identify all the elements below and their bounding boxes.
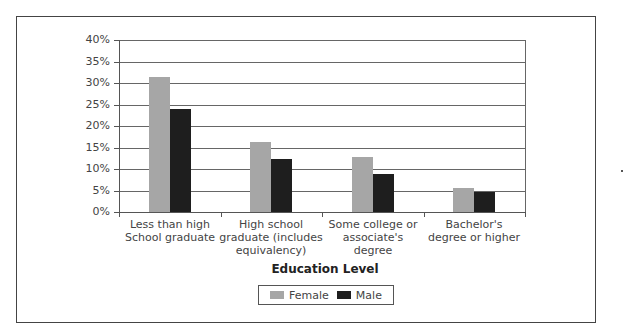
y-tick-label: 20% (64, 120, 110, 132)
bar-female (250, 142, 271, 212)
legend-label: Female (289, 289, 329, 302)
bar-male (271, 159, 292, 212)
bar-male (170, 109, 191, 212)
gridline (119, 40, 525, 41)
y-tick-label: 40% (64, 34, 110, 46)
x-tick (424, 212, 425, 217)
y-tick-label: 35% (64, 56, 110, 68)
x-tick (525, 212, 526, 217)
y-tick-label: 0% (64, 206, 110, 218)
bar-female (352, 157, 373, 212)
y-axis (119, 40, 120, 212)
legend-label: Male (356, 289, 382, 302)
y-tick-label: 25% (64, 99, 110, 111)
y-tick-label: 5% (64, 185, 110, 197)
bar-female (149, 77, 170, 212)
x-category-label: Some college orassociate'sdegree (318, 218, 428, 257)
gridline (119, 105, 525, 106)
x-tick (221, 212, 222, 217)
x-tick (322, 212, 323, 217)
legend-item-male: Male (337, 289, 382, 302)
y-tick-label: 30% (64, 77, 110, 89)
legend-item-female: Female (270, 289, 329, 302)
legend-swatch (337, 291, 351, 299)
x-category-label: Bachelor'sdegree or higher (419, 218, 529, 244)
gridline (119, 83, 525, 84)
legend: FemaleMale (258, 285, 394, 305)
bar-male (474, 192, 495, 212)
plot-right-edge (525, 40, 526, 212)
x-category-label: Less than highSchool graduate (115, 218, 225, 244)
legend-swatch (270, 291, 284, 299)
bar-male (373, 174, 394, 212)
y-tick-label: 10% (64, 163, 110, 175)
x-axis-title: Education Level (250, 262, 400, 276)
bar-female (453, 188, 474, 212)
gridline (119, 62, 525, 63)
y-tick-label: 15% (64, 142, 110, 154)
x-tick (119, 212, 120, 217)
x-category-label: High schoolgraduate (includesequivalency… (216, 218, 326, 257)
